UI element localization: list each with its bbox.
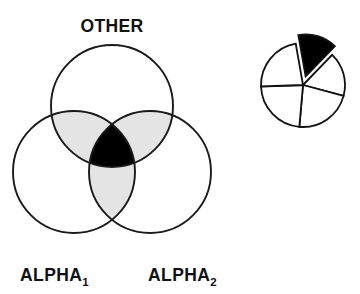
venn-label-other: OTHER (80, 16, 143, 36)
venn-label-alpha2: ALPHA2 (148, 265, 217, 288)
figure-canvas: OTHER ALPHA1 ALPHA2 (0, 0, 360, 294)
venn-label-alpha1-subscript: 1 (82, 276, 89, 288)
venn-label-alpha1: ALPHA1 (20, 265, 89, 288)
venn-label-alpha1-base: ALPHA (20, 265, 82, 285)
venn-label-alpha2-subscript: 2 (210, 276, 217, 288)
figure-root: OTHER ALPHA1 ALPHA2 (0, 0, 360, 294)
venn-label-alpha2-base: ALPHA (148, 265, 210, 285)
